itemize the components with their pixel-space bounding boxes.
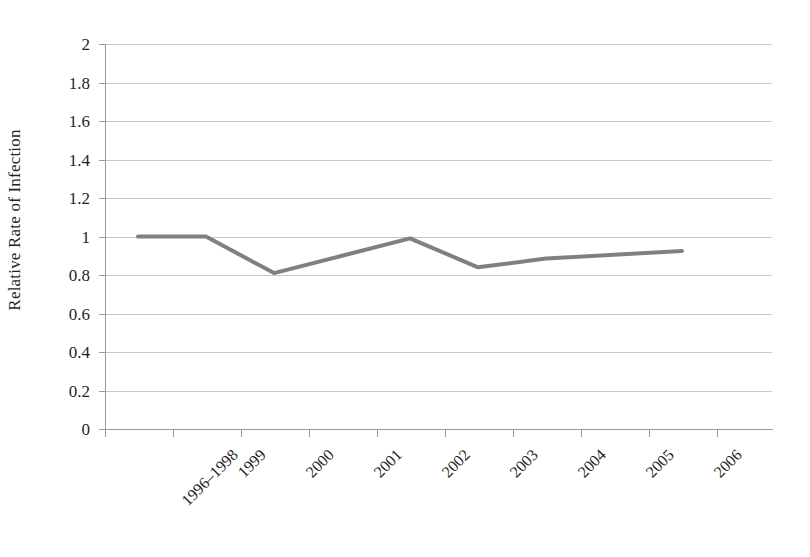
gridline — [105, 83, 772, 84]
x-tick-mark — [309, 430, 310, 437]
y-tick-label: 2 — [46, 36, 90, 53]
x-tick-mark — [445, 430, 446, 437]
y-tick-label: 1.8 — [46, 74, 90, 91]
x-tick-label: 2000 — [302, 446, 337, 481]
x-tick-mark — [649, 430, 650, 437]
x-tick-label: 2002 — [438, 446, 473, 481]
plot-area — [105, 44, 772, 429]
gridline — [105, 121, 772, 122]
x-tick-mark — [513, 430, 514, 437]
y-tick-label: 0.2 — [46, 382, 90, 399]
x-axis-line — [105, 429, 773, 430]
x-tick-mark — [173, 430, 174, 437]
x-tick-label: 2003 — [506, 446, 541, 481]
gridline — [105, 391, 772, 392]
gridline — [105, 44, 772, 45]
x-tick-mark — [105, 430, 106, 437]
y-tick-label: 0.4 — [46, 344, 90, 361]
gridline — [105, 314, 772, 315]
y-tick-label: 1.6 — [46, 113, 90, 130]
y-axis-title-label: Relative Rate of Infection — [5, 129, 25, 310]
y-axis-title: Relative Rate of Infection — [0, 0, 30, 440]
gridline — [105, 237, 772, 238]
x-tick-label: 2001 — [370, 446, 405, 481]
y-tick-label: 1.4 — [46, 151, 90, 168]
y-axis-tick-labels: 0 0.2 0.4 0.6 0.8 1 1.2 1.4 1.6 1.8 2 — [46, 0, 90, 557]
x-tick-label: 2006 — [710, 446, 745, 481]
x-tick-label: 2004 — [574, 446, 609, 481]
line-chart: Relative Rate of Infection 0 0.2 0.4 0.6… — [0, 0, 810, 557]
x-tick-mark — [581, 430, 582, 437]
y-tick-label: 0.6 — [46, 305, 90, 322]
gridline — [105, 160, 772, 161]
x-tick-label: 1999 — [234, 446, 269, 481]
gridline — [105, 198, 772, 199]
y-axis-line — [105, 44, 106, 430]
x-tick-mark — [377, 430, 378, 437]
y-tick-label: 0.8 — [46, 267, 90, 284]
gridline — [105, 275, 772, 276]
y-tick-label: 0 — [46, 421, 90, 438]
x-tick-mark — [241, 430, 242, 437]
x-tick-label: 1996–1998 — [178, 446, 242, 510]
gridline — [105, 352, 772, 353]
x-tick-mark — [717, 430, 718, 437]
y-tick-label: 1.2 — [46, 190, 90, 207]
x-tick-label: 2005 — [642, 446, 677, 481]
y-tick-label: 1 — [46, 228, 90, 245]
